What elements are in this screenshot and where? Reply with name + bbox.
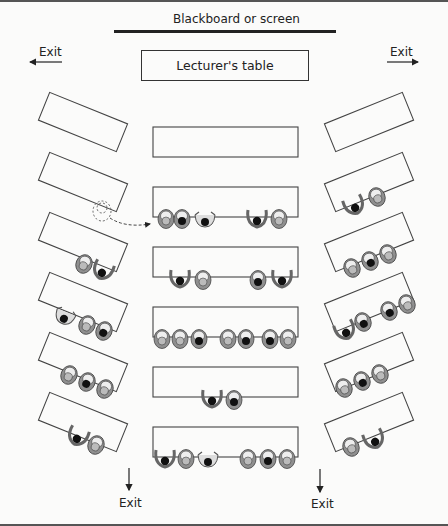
centre-row-3-students	[171, 270, 292, 290]
right-row-4-students	[333, 292, 418, 342]
seating-layout	[0, 0, 448, 526]
centre-table-3	[153, 247, 298, 277]
right-table-6	[324, 392, 413, 451]
right-tables	[324, 92, 413, 451]
centre-row-4-students	[154, 330, 296, 349]
right-row-3-students	[341, 242, 399, 280]
left-row-5-students	[58, 363, 116, 401]
move-arrow-icon	[110, 218, 150, 225]
centre-table-1	[153, 127, 298, 157]
centre-row-2-students	[158, 210, 287, 229]
right-row-6-students	[340, 428, 386, 459]
left-table-1	[38, 92, 127, 151]
centre-row-6-students	[156, 450, 295, 469]
centre-tables	[153, 127, 298, 457]
left-table-2	[38, 152, 127, 211]
left-row-3-students	[73, 252, 115, 282]
right-table-2	[324, 152, 413, 211]
centre-row-5-students	[203, 390, 242, 410]
moving-student-icon	[93, 201, 150, 225]
right-row-5-students	[333, 362, 391, 400]
right-table-1	[324, 92, 413, 151]
left-row-6-students	[66, 425, 107, 457]
right-row-2-students	[342, 185, 388, 217]
centre-table-5	[153, 367, 298, 397]
